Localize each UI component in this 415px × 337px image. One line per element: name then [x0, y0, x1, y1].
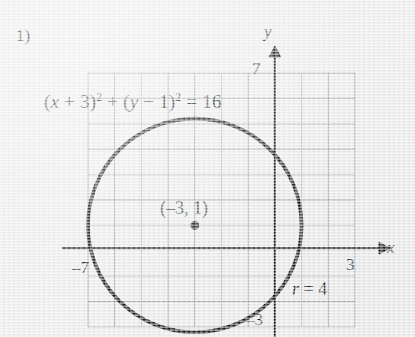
y-axis-arrow-icon: [269, 46, 281, 57]
circle-center-label: (–3, 1): [160, 199, 208, 217]
equation-var-x: x: [51, 91, 60, 112]
y-axis-tick-label-neg3: –3: [246, 311, 263, 328]
y-axis-label: y: [264, 23, 272, 40]
problem-number-label: 1): [16, 27, 30, 44]
x-axis-tick-label-neg7: –7: [72, 259, 89, 276]
x-axis-label: x: [387, 239, 395, 256]
circle-radius-label: r = 4: [292, 280, 327, 298]
y-axis-tick-label-7: 7: [252, 60, 261, 77]
center-point-marker: [191, 221, 200, 230]
equation-equals-value: = 16: [181, 91, 221, 112]
equation-part1-rest: + 3): [59, 91, 96, 112]
coordinate-plane-figure: [0, 0, 415, 337]
figure-page: 1) (x + 3)2 + (y − 1)2 = 16 y x 7 –7 3 –…: [0, 0, 415, 337]
equation-part2-rest: − 1): [138, 91, 175, 112]
radius-var: r: [292, 279, 299, 299]
equation-plus: +: [102, 91, 123, 112]
x-axis-tick-label-3: 3: [346, 256, 355, 273]
circle-equation-label: (x + 3)2 + (y − 1)2 = 16: [44, 92, 222, 111]
radius-value: = 4: [299, 279, 327, 299]
